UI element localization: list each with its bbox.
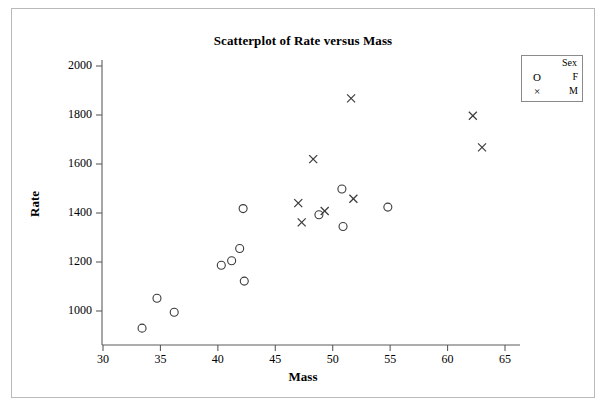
- data-point-cross[interactable]: [321, 207, 329, 215]
- x-tick-label: 40: [198, 352, 238, 367]
- y-tick-label: 1200: [52, 254, 92, 269]
- y-tick-label: 1400: [52, 205, 92, 220]
- axes: [102, 60, 520, 345]
- legend-title: Sex: [562, 57, 577, 68]
- scatterplot-root: Scatterplot of Rate versus Mass Mass Rat…: [0, 0, 606, 414]
- cross-icon: ×: [531, 84, 543, 98]
- data-point-circle[interactable]: [384, 203, 392, 211]
- data-point-cross[interactable]: [478, 143, 486, 151]
- data-point-circle[interactable]: [339, 222, 347, 230]
- axis-ticks: [96, 66, 505, 351]
- legend-label-f: F: [572, 70, 578, 84]
- x-tick-label: 50: [313, 352, 353, 367]
- data-point-cross[interactable]: [469, 112, 477, 120]
- data-point-cross[interactable]: [347, 94, 355, 102]
- legend[interactable]: Sex O F × M: [521, 55, 583, 102]
- legend-label-m: M: [569, 84, 578, 98]
- data-point-circle[interactable]: [236, 245, 244, 253]
- data-point-cross[interactable]: [349, 195, 357, 203]
- x-tick-label: 35: [140, 352, 180, 367]
- data-point-circle[interactable]: [170, 308, 178, 316]
- legend-entry-f[interactable]: O F: [522, 70, 584, 84]
- x-tick-label: 45: [255, 352, 295, 367]
- legend-entry-m[interactable]: × M: [522, 84, 584, 98]
- data-point-cross[interactable]: [309, 155, 317, 163]
- data-point-circle[interactable]: [153, 294, 161, 302]
- data-point-cross[interactable]: [298, 218, 306, 226]
- data-point-circle[interactable]: [138, 324, 146, 332]
- circle-icon: O: [531, 70, 543, 84]
- data-point-circle[interactable]: [217, 261, 225, 269]
- x-tick-label: 55: [370, 352, 410, 367]
- y-tick-label: 1800: [52, 107, 92, 122]
- data-point-circle[interactable]: [228, 257, 236, 265]
- y-tick-label: 2000: [52, 58, 92, 73]
- x-tick-label: 30: [83, 352, 123, 367]
- y-tick-label: 1000: [52, 303, 92, 318]
- data-point-circle[interactable]: [338, 185, 346, 193]
- data-points: [138, 94, 486, 332]
- y-tick-label: 1600: [52, 156, 92, 171]
- data-point-circle[interactable]: [239, 205, 247, 213]
- x-tick-label: 60: [428, 352, 468, 367]
- x-tick-label: 65: [485, 352, 525, 367]
- data-point-cross[interactable]: [294, 199, 302, 207]
- data-point-circle[interactable]: [240, 277, 248, 285]
